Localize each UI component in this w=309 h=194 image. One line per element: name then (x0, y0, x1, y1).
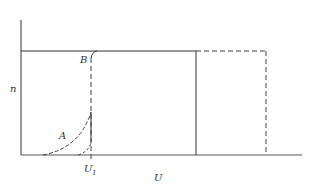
curve-a (43, 112, 91, 155)
diagram: n U A B U 1 (0, 0, 309, 194)
curve-small (78, 143, 91, 155)
curve-a-label: A (58, 130, 66, 141)
x-axis-label: U (154, 172, 163, 183)
u1-subscript: 1 (92, 169, 96, 177)
y-axis-label: n (10, 83, 16, 94)
curve-b-label: B (79, 54, 87, 65)
curve-b (91, 51, 97, 58)
